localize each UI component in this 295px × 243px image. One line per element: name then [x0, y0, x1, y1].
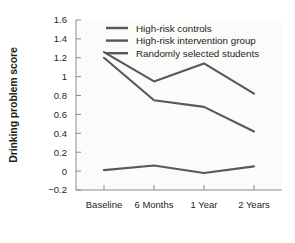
y-axis-tick-label: 0.2 — [54, 147, 67, 158]
y-axis-tick-label: 0.6 — [54, 109, 67, 120]
y-axis-tick-label: 1.6 — [54, 14, 67, 25]
y-axis-tick-label: 0.8 — [54, 90, 67, 101]
x-axis-tick-label: 1 Year — [191, 199, 218, 210]
legend-label: High-risk intervention group — [136, 35, 256, 46]
x-axis-tick-label: 2 Years — [238, 199, 270, 210]
x-axis-tick-label: Baseline — [86, 199, 122, 210]
y-axis-tick-label: 0 — [62, 166, 67, 177]
y-axis-tick-label: 1.2 — [54, 52, 67, 63]
plot-area: 1.61.41.210.80.60.40.20−0.2 Baseline6 Mo… — [0, 0, 295, 243]
y-axis-tick-label: −0.2 — [48, 184, 67, 195]
legend-label: High-risk controls — [136, 23, 212, 34]
y-axis-tick-label: 0.4 — [54, 128, 67, 139]
x-axis-tick-labels: Baseline6 Months1 Year2 Years — [86, 199, 270, 210]
drinking-problem-score-chart: Drinking problem score 1.61.41.210.80.60… — [0, 0, 295, 243]
legend-label: Randomly selected students — [136, 48, 259, 59]
y-axis-tick-labels: 1.61.41.210.80.60.40.20−0.2 — [48, 14, 67, 195]
x-axis-tick-label: 6 Months — [134, 199, 173, 210]
y-axis-tick-label: 1.4 — [54, 33, 67, 44]
y-axis-tick-label: 1 — [62, 71, 67, 82]
